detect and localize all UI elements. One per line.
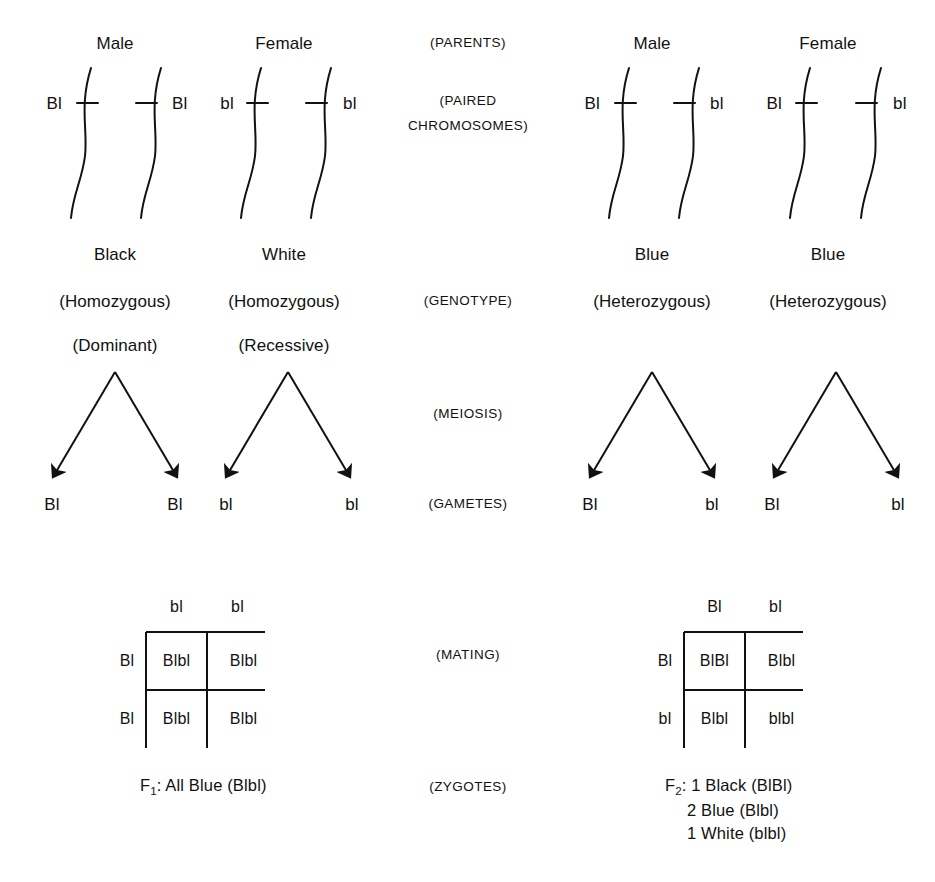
f1-male-meiosis-arrow-right <box>652 372 714 477</box>
p-male-meiosis-arrow-left <box>53 372 115 477</box>
dominance-label-p-female: (Recessive) <box>239 337 330 354</box>
sex-label-p-female: Female <box>255 35 312 52</box>
f2-punnett-side-header-0: Bl <box>658 653 673 669</box>
f1-male-chromosome-0-strand <box>609 68 629 218</box>
f1-punnett-top-header-0: bl <box>170 599 183 615</box>
f1-punnett-cell-r0-c0: Blbl <box>163 653 190 669</box>
p-female-gamete-0: bl <box>219 496 233 513</box>
f1-male-chromosome-1-strand <box>679 68 699 218</box>
f1-punnett-cell-r1-c0: Blbl <box>163 711 190 727</box>
stage-label-zygotes: (ZYGOTES) <box>429 780 507 794</box>
genetics-diagram: (PARENTS)(PAIREDCHROMOSOMES)(GENOTYPE)(M… <box>0 0 935 882</box>
stage-label-genotype: (GENOTYPE) <box>424 294 513 308</box>
f2-punnett-cell-r0-c1: Blbl <box>768 653 795 669</box>
f1-punnett-cell-r0-c1: Blbl <box>230 653 257 669</box>
f2-result-line-2: 1 White (blbl) <box>687 825 786 842</box>
phenotype-label-p-female: White <box>262 246 306 263</box>
punnett-grid-group <box>146 632 803 748</box>
p-male-allele-label-0: Bl <box>46 95 62 112</box>
phenotype-label-f1-female: Blue <box>811 246 845 263</box>
p-female-allele-label-1: bl <box>343 95 357 112</box>
stage-label-gametes: (GAMETES) <box>428 497 507 511</box>
p-male-allele-label-1: Bl <box>172 95 188 112</box>
f1-female-chromosome-1-strand <box>861 68 881 218</box>
f1-male-meiosis-arrow-left <box>590 372 652 477</box>
f1-result-generation-symbol: F <box>140 776 150 794</box>
zygosity-label-p-male: (Homozygous) <box>59 293 171 310</box>
sex-label-f1-male: Male <box>633 35 670 52</box>
f2-result-text-2: 1 White (blbl) <box>687 824 786 842</box>
zygosity-label-f1-female: (Heterozygous) <box>769 293 887 310</box>
f1-male-allele-label-1: bl <box>710 95 724 112</box>
stage-label-mating: (MATING) <box>436 648 500 662</box>
f1-female-allele-label-1: bl <box>893 95 907 112</box>
f2-result-text-1: 2 Blue (Blbl) <box>687 801 779 819</box>
stage-label-parents: (PARENTS) <box>430 36 506 50</box>
p-female-gamete-1: bl <box>345 496 359 513</box>
f2-result-generation-symbol: F <box>665 776 675 794</box>
f2-punnett-cell-r0-c0: BlBl <box>700 653 729 669</box>
f2-result-generation-number: 2 <box>675 785 682 797</box>
phenotype-label-f1-male: Blue <box>635 246 669 263</box>
sex-label-f1-female: Female <box>799 35 856 52</box>
f2-punnett-cell-r1-c1: blbl <box>769 711 795 727</box>
stage-label-paired2: CHROMOSOMES) <box>408 119 528 133</box>
stage-label-meiosis: (MEIOSIS) <box>433 407 502 421</box>
f1-male-gamete-1: bl <box>705 496 719 513</box>
f1-male-gamete-0: Bl <box>582 496 598 513</box>
zygosity-label-p-female: (Homozygous) <box>228 293 340 310</box>
f1-punnett-side-header-0: Bl <box>120 653 135 669</box>
chromosomes-group <box>71 68 881 218</box>
f1-punnett-top-header-1: bl <box>231 599 244 615</box>
diagram-text-layer: (PARENTS)(PAIREDCHROMOSOMES)(GENOTYPE)(M… <box>0 0 935 882</box>
f2-punnett-cell-r1-c0: Blbl <box>701 711 728 727</box>
f1-female-chromosome-0-strand <box>790 68 810 218</box>
phenotype-label-p-male: Black <box>94 246 136 263</box>
p-female-meiosis-arrow-right <box>288 372 350 477</box>
sex-label-p-male: Male <box>96 35 133 52</box>
diagram-vector-layer <box>0 0 935 882</box>
f2-punnett-side-header-1: bl <box>659 711 672 727</box>
f1-male-allele-label-0: Bl <box>584 95 600 112</box>
f1-result-line-0: F1: All Blue (Blbl) <box>140 777 267 798</box>
p-male-meiosis-arrow-right <box>115 372 177 477</box>
f2-result-text-0: : 1 Black (BlBl) <box>682 776 793 794</box>
dominance-label-p-male: (Dominant) <box>72 337 157 354</box>
p-female-chromosome-0-strand <box>241 68 261 218</box>
p-female-allele-label-0: bl <box>220 95 234 112</box>
p-male-gamete-0: Bl <box>44 496 60 513</box>
p-male-chromosome-0-strand <box>71 68 91 218</box>
f1-female-meiosis-arrow-right <box>836 372 898 477</box>
f1-female-gamete-0: Bl <box>764 496 780 513</box>
f1-female-meiosis-arrow-left <box>774 372 836 477</box>
f1-punnett-side-header-1: Bl <box>120 711 135 727</box>
p-female-meiosis-arrow-left <box>226 372 288 477</box>
f2-result-line-0: F2: 1 Black (BlBl) <box>665 777 792 798</box>
f1-result-text-0: : All Blue (Blbl) <box>157 776 267 794</box>
f1-result-generation-number: 1 <box>150 785 157 797</box>
f1-punnett-cell-r1-c1: Blbl <box>230 711 257 727</box>
p-female-chromosome-1-strand <box>311 68 331 218</box>
zygosity-label-f1-male: (Heterozygous) <box>593 293 711 310</box>
f1-female-gamete-1: bl <box>891 496 905 513</box>
stage-label-paired1: (PAIRED <box>440 94 497 108</box>
f2-punnett-top-header-0: Bl <box>707 599 722 615</box>
f2-punnett-top-header-1: bl <box>769 599 782 615</box>
f1-female-allele-label-0: Bl <box>766 95 782 112</box>
p-male-gamete-1: Bl <box>167 496 183 513</box>
f2-result-line-1: 2 Blue (Blbl) <box>687 802 779 819</box>
p-male-chromosome-1-strand <box>141 68 161 218</box>
meiosis-arrows-group <box>53 372 898 477</box>
